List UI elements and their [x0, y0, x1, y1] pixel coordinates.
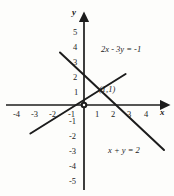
x-tick-1: 1	[95, 110, 99, 119]
origin-point-inner	[83, 104, 86, 107]
equation-label-line2: x + y = 2	[108, 146, 140, 155]
graph-canvas	[0, 0, 174, 196]
y-tick-4: 4	[73, 43, 77, 52]
x-axis-label: x	[160, 108, 165, 117]
x-tick-2: 2	[111, 110, 115, 119]
y-tick-5: 5	[73, 28, 77, 37]
intersection-point-label: (1,1)	[99, 85, 115, 94]
y-tick-3: 3	[73, 58, 77, 67]
x-tick-4: 4	[144, 110, 148, 119]
line-2x-minus-3y-equals-neg1	[30, 74, 125, 134]
y-tick-neg3: -3	[69, 147, 76, 156]
y-tick-neg4: -4	[69, 162, 76, 171]
equation-label-line1: 2x - 3y = -1	[101, 45, 141, 54]
x-tick-3: 3	[127, 110, 131, 119]
y-tick-1: 1	[74, 88, 78, 97]
x-tick-neg4: -4	[13, 110, 20, 119]
y-tick-neg5: -5	[69, 177, 76, 186]
x-tick-neg1: -1	[68, 110, 75, 119]
x-tick-neg3: -3	[31, 110, 38, 119]
y-axis-label: y	[72, 8, 76, 17]
y-tick-2: 2	[73, 73, 77, 82]
y-tick-neg2: -2	[69, 132, 76, 141]
x-tick-neg2: -2	[49, 110, 56, 119]
